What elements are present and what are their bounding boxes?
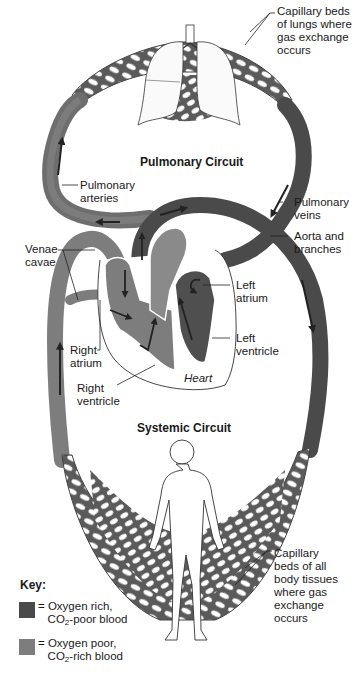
key-item-text: = Oxygen poor, CO2-rich blood xyxy=(38,637,123,663)
label-left-atrium: Left atrium xyxy=(236,279,268,305)
label-lung-capillaries: Capillary beds of lungs where gas exchan… xyxy=(277,5,352,57)
label-pulmonary-veins: Pulmonary veins xyxy=(294,196,349,222)
label-pulmonary-arteries: Pulmonary arteries xyxy=(80,179,135,205)
label-left-ventricle: Left ventricle xyxy=(236,332,279,358)
label-venae-cavae: Venae cavae xyxy=(25,243,58,269)
oxygen-poor-swatch xyxy=(19,639,35,655)
label-heart: Heart xyxy=(184,372,212,385)
label-body-capillaries: Capillary beds of all body tissues where… xyxy=(274,547,338,625)
oxygen-rich-swatch xyxy=(19,602,35,618)
key-title: Key: xyxy=(20,578,46,592)
key-item-text: = Oxygen rich, CO2-poor blood xyxy=(38,600,127,626)
pulmonary-veins-vessel xyxy=(225,105,304,260)
label-right-ventricle: Right ventricle xyxy=(77,382,120,408)
systemic-circuit-title: Systemic Circuit xyxy=(137,421,231,435)
key-item-oxygen-rich: = Oxygen rich, CO2-poor blood xyxy=(19,600,127,626)
pulmonary-circuit-title: Pulmonary Circuit xyxy=(140,155,243,169)
label-aorta: Aorta and branches xyxy=(294,230,344,256)
key-item-oxygen-poor: = Oxygen poor, CO2-rich blood xyxy=(19,637,123,663)
label-right-atrium: Right atrium xyxy=(70,344,102,370)
